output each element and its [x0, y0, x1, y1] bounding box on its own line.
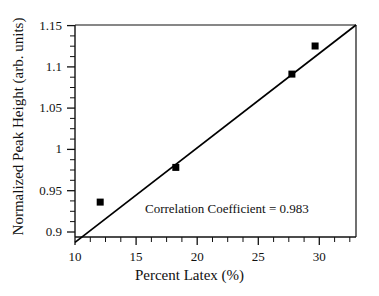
data-point	[288, 71, 295, 78]
xtick-label-15: 15	[130, 249, 143, 265]
x-axis-minor-ticks	[90, 237, 350, 242]
data-point	[312, 43, 319, 50]
data-markers	[97, 43, 319, 206]
xtick-label-25: 25	[252, 249, 265, 265]
xtick-label-30: 30	[313, 249, 326, 265]
x-axis-major-ticks	[75, 237, 319, 245]
data-point	[97, 199, 104, 206]
xtick-label-20: 20	[191, 249, 204, 265]
y-axis-title: Normalized Peak Height (arb. units)	[10, 7, 27, 247]
correlation-coefficient-annotation: Correlation Coefficient = 0.983	[145, 201, 309, 217]
x-axis-title: Percent Latex (%)	[0, 267, 379, 284]
data-point	[172, 164, 179, 171]
chart-figure: 1.15 1.1 1.05 1 0.95 0.9 10 15 20 25 30 …	[0, 0, 379, 296]
xtick-label-10: 10	[69, 249, 82, 265]
y-axis-minor-ticks	[70, 36, 75, 222]
